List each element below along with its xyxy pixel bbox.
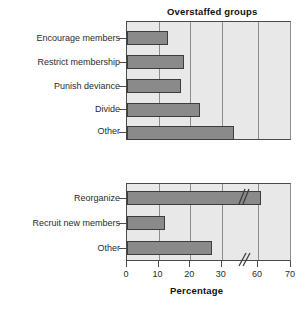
xticklabel-70: 70 [275, 269, 305, 279]
ytick-understaffed-1 [119, 223, 126, 224]
ytick-overstaffed-1 [119, 62, 126, 63]
bar-reorganize [127, 191, 261, 205]
x-axis-label: Percentage [170, 285, 223, 296]
category-label-punish-deviance: Punish deviance [0, 81, 120, 91]
bar-chart-figure: Overstaffed groups Encourage members Res… [0, 0, 306, 311]
ytick-overstaffed-3 [119, 109, 126, 110]
plot-area-overstaffed [126, 21, 291, 140]
bar-restrict-membership [127, 55, 184, 69]
gridline-20 [190, 22, 191, 139]
category-label-other-understaffed: Other [0, 243, 120, 253]
xtick-0 [126, 261, 127, 267]
bar-encourage-members [127, 31, 168, 45]
category-label-divide: Divide [0, 104, 120, 114]
category-label-reorganize: Reorganize [0, 193, 120, 203]
gridline-30 [222, 22, 223, 139]
ytick-overstaffed-2 [119, 86, 126, 87]
xticklabel-10: 10 [143, 269, 173, 279]
bar-recruit-new-members [127, 216, 165, 230]
bar-divide [127, 103, 200, 117]
xtick-10 [158, 261, 159, 267]
plot-area-understaffed [126, 183, 291, 261]
xticklabel-20: 20 [174, 269, 204, 279]
gridline-60 [258, 22, 259, 139]
bar-punish-deviance [127, 79, 181, 93]
category-label-other-overstaffed: Other [0, 126, 120, 136]
category-label-restrict-membership: Restrict membership [0, 57, 120, 67]
ytick-understaffed-0 [119, 198, 126, 199]
ytick-overstaffed-0 [119, 38, 126, 39]
xtick-70 [290, 261, 291, 267]
xticklabel-60: 60 [242, 269, 272, 279]
category-label-recruit-new-members: Recruit new members [0, 218, 120, 228]
ytick-understaffed-2 [119, 248, 126, 249]
xtick-20 [189, 261, 190, 267]
bar-other-understaffed [127, 241, 212, 255]
ytick-overstaffed-4 [119, 132, 126, 133]
xticklabel-30: 30 [206, 269, 236, 279]
category-label-encourage-members: Encourage members [0, 33, 120, 43]
xticklabel-0: 0 [111, 269, 141, 279]
xtick-60 [257, 261, 258, 267]
xtick-30 [221, 261, 222, 267]
bar-other-overstaffed [127, 126, 234, 140]
panel-title-overstaffed: Overstaffed groups [167, 6, 257, 17]
